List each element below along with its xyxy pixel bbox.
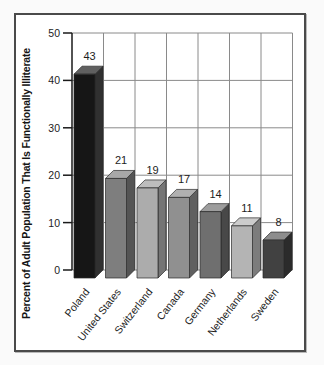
bar-canada-side (190, 189, 198, 278)
bar-poland-front (74, 74, 95, 278)
bar-value-label: 43 (83, 50, 95, 62)
y-tick-label: 50 (48, 27, 60, 39)
bar-united-states-side (127, 170, 135, 278)
bar-chart: 0102030405043Poland21United States19Swit… (0, 0, 324, 365)
bar-value-label: 8 (275, 216, 281, 228)
bar-germany-side (221, 204, 229, 278)
y-tick-label: 30 (48, 122, 60, 134)
y-tick-label: 10 (48, 217, 60, 229)
bar-united-states-front (106, 178, 127, 278)
x-category-label: Sweden (248, 286, 281, 323)
figure: Percent of Adult Population That Is Func… (0, 0, 324, 365)
bar-value-label: 17 (178, 173, 190, 185)
x-category-label: Poland (62, 286, 92, 319)
bar-poland-side (95, 66, 103, 278)
y-tick-label: 20 (48, 169, 60, 181)
bar-netherlands-front (232, 226, 253, 278)
bar-sweden-front (263, 240, 284, 278)
x-category-label: Canada (154, 286, 186, 322)
bar-switzerland-front (137, 188, 158, 278)
bar-switzerland-side (158, 180, 166, 278)
bar-netherlands-side (253, 218, 261, 278)
bar-value-label: 21 (115, 154, 127, 166)
bar-canada-front (169, 197, 190, 278)
bar-germany-front (200, 212, 221, 278)
bar-value-label: 19 (146, 164, 158, 176)
bar-value-label: 11 (241, 202, 252, 214)
y-tick-label: 0 (54, 264, 60, 276)
bar-value-label: 14 (209, 188, 221, 200)
y-tick-label: 40 (48, 74, 60, 86)
